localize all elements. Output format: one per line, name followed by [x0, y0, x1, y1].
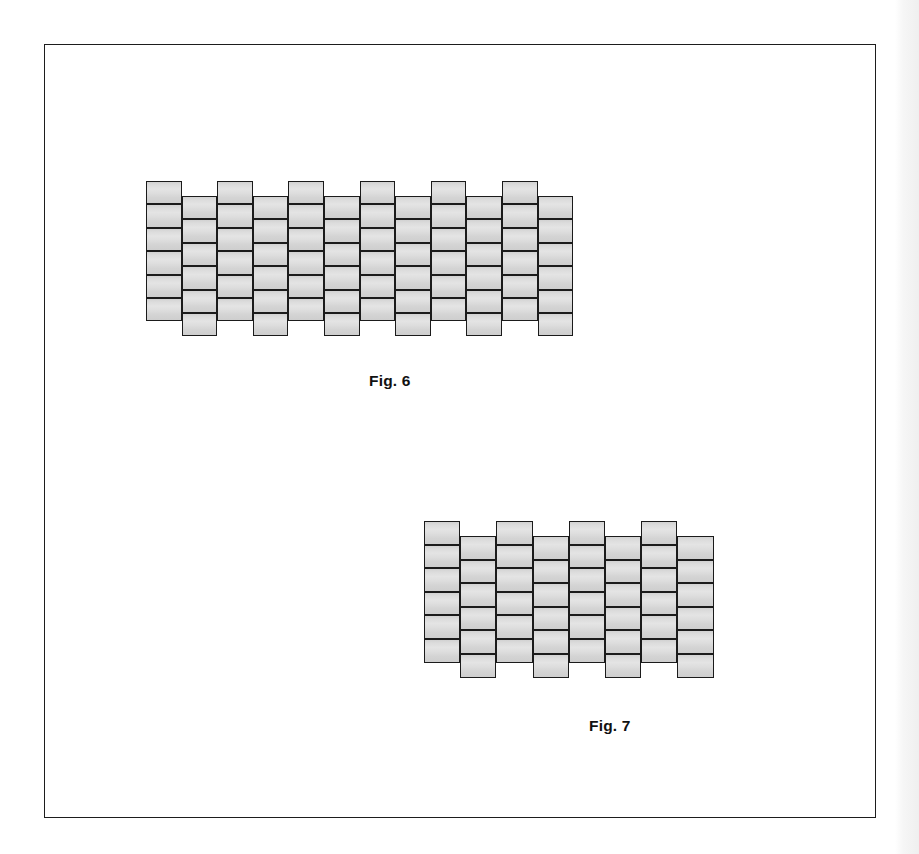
brick [460, 654, 496, 678]
brick [569, 568, 605, 592]
brick [288, 251, 324, 274]
brick [288, 181, 324, 204]
brick [677, 536, 713, 560]
brick [460, 630, 496, 654]
brick [677, 630, 713, 654]
brick [217, 251, 253, 274]
brick [466, 243, 502, 266]
brick [146, 298, 182, 321]
brick [496, 592, 532, 616]
brick [538, 219, 574, 242]
brick [533, 607, 569, 631]
brick [460, 583, 496, 607]
brick [569, 592, 605, 616]
brick [641, 521, 677, 545]
brick [253, 219, 289, 242]
brick [641, 568, 677, 592]
brick [182, 290, 218, 313]
brick [360, 298, 396, 321]
brick [605, 560, 641, 584]
page-frame: Fig. 6Fig. 7 [44, 44, 876, 818]
brick [677, 654, 713, 678]
brick [496, 521, 532, 545]
brick [569, 521, 605, 545]
brick [288, 204, 324, 227]
brick [360, 275, 396, 298]
figure-caption-fig-6: Fig. 6 [369, 372, 411, 390]
brick [324, 219, 360, 242]
brick [288, 298, 324, 321]
brick [641, 639, 677, 663]
brick [217, 298, 253, 321]
brick [253, 290, 289, 313]
brick [677, 607, 713, 631]
brick [641, 545, 677, 569]
brick [395, 219, 431, 242]
brick [533, 560, 569, 584]
figure-fig-7 [424, 521, 714, 678]
brick [395, 266, 431, 289]
brick [605, 630, 641, 654]
brick [533, 654, 569, 678]
brick [253, 266, 289, 289]
brick [496, 545, 532, 569]
brick [460, 607, 496, 631]
brick [605, 607, 641, 631]
brick [431, 298, 467, 321]
brick [605, 654, 641, 678]
brick [324, 290, 360, 313]
brick [538, 313, 574, 336]
brick [395, 196, 431, 219]
scan-edge-shading [895, 0, 919, 854]
brick [466, 290, 502, 313]
brick [431, 251, 467, 274]
brick [502, 204, 538, 227]
brick [496, 568, 532, 592]
brick [533, 630, 569, 654]
brick [146, 251, 182, 274]
brick [395, 243, 431, 266]
brick [253, 243, 289, 266]
brick [182, 219, 218, 242]
brick [460, 560, 496, 584]
brick [466, 266, 502, 289]
brick [217, 275, 253, 298]
brick [424, 568, 460, 592]
brick [424, 592, 460, 616]
brick [324, 266, 360, 289]
brick [538, 243, 574, 266]
brick [569, 639, 605, 663]
brick [569, 615, 605, 639]
brick [605, 536, 641, 560]
brick [146, 204, 182, 227]
brick [677, 560, 713, 584]
brick [360, 251, 396, 274]
brick [395, 313, 431, 336]
brick [533, 583, 569, 607]
brick [466, 219, 502, 242]
brick [677, 583, 713, 607]
brick [424, 521, 460, 545]
brick [288, 228, 324, 251]
figure-fig-6 [146, 181, 573, 336]
brick [533, 536, 569, 560]
brick [324, 313, 360, 336]
brick [496, 615, 532, 639]
brick [502, 251, 538, 274]
brick [569, 545, 605, 569]
brick [431, 204, 467, 227]
brick [182, 313, 218, 336]
brick [502, 228, 538, 251]
brick [466, 313, 502, 336]
brick [217, 228, 253, 251]
figure-caption-fig-7: Fig. 7 [589, 717, 631, 735]
brick [146, 228, 182, 251]
brick [395, 290, 431, 313]
brick [253, 196, 289, 219]
brick [460, 536, 496, 560]
brick [288, 275, 324, 298]
brick [146, 275, 182, 298]
brick [502, 298, 538, 321]
brick [605, 583, 641, 607]
brick [182, 243, 218, 266]
